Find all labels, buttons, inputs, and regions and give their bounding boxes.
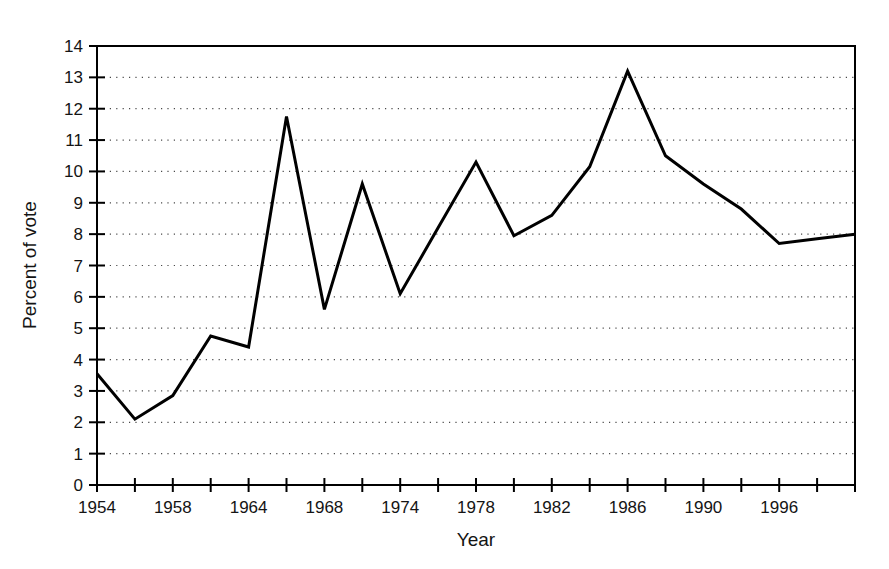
y-tick-label-7: 7 — [74, 257, 83, 276]
y-tick-label-14: 14 — [64, 37, 83, 56]
chart-background — [0, 0, 889, 569]
x-axis-ticks — [97, 478, 855, 492]
line-chart: 01234567891011121314 1954195819641968197… — [0, 0, 889, 569]
y-tick-label-9: 9 — [74, 194, 83, 213]
y-tick-label-4: 4 — [74, 351, 83, 370]
x-tick-label-1954: 1954 — [78, 498, 116, 517]
y-tick-label-11: 11 — [65, 131, 83, 150]
chart-figure: 01234567891011121314 1954195819641968197… — [0, 0, 889, 569]
x-tick-label-1986: 1986 — [609, 498, 647, 517]
y-tick-label-1: 1 — [74, 445, 83, 464]
x-tick-label-1964: 1964 — [230, 498, 268, 517]
y-tick-label-13: 13 — [64, 68, 83, 87]
x-tick-label-1996: 1996 — [760, 498, 798, 517]
x-tick-label-1968: 1968 — [305, 498, 343, 517]
y-axis-title: Percent of vote — [19, 201, 40, 329]
y-tick-label-12: 12 — [64, 100, 83, 119]
y-tick-label-8: 8 — [74, 225, 83, 244]
x-tick-label-1978: 1978 — [457, 498, 495, 517]
x-tick-label-1990: 1990 — [684, 498, 722, 517]
x-axis-title: Year — [457, 529, 496, 550]
y-tick-label-2: 2 — [74, 413, 83, 432]
y-tick-label-0: 0 — [74, 476, 83, 495]
y-tick-label-10: 10 — [64, 162, 83, 181]
y-tick-label-5: 5 — [74, 319, 83, 338]
x-tick-label-1974: 1974 — [381, 498, 419, 517]
x-tick-label-1958: 1958 — [154, 498, 192, 517]
y-tick-label-6: 6 — [74, 288, 83, 307]
x-tick-label-1982: 1982 — [533, 498, 571, 517]
y-tick-label-3: 3 — [74, 382, 83, 401]
